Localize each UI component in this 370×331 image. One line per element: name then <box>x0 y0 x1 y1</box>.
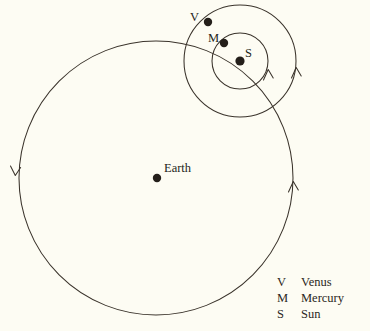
earth-dot <box>153 174 161 182</box>
legend-symbol-venus: V <box>277 274 301 290</box>
venus-orbit-arrow-icon <box>292 68 302 79</box>
legend-name-venus: Venus <box>301 274 332 290</box>
sun-label: S <box>245 46 252 60</box>
mercury-dot <box>220 39 228 47</box>
legend: V Venus M Mercury S Sun <box>277 274 367 322</box>
legend-row-venus: V Venus <box>277 274 367 290</box>
legend-symbol-mercury: M <box>277 290 301 306</box>
legend-name-mercury: Mercury <box>301 290 344 306</box>
earth-label: Earth <box>164 161 192 175</box>
venus-dot <box>204 18 212 26</box>
legend-name-sun: Sun <box>301 306 320 322</box>
venus-label: V <box>190 10 199 24</box>
orbital-diagram: Earth V M S V Venus M Mercury S Sun <box>0 0 370 331</box>
mercury-label: M <box>208 31 219 45</box>
legend-symbol-sun: S <box>277 306 301 322</box>
sun-dot <box>235 56 244 65</box>
legend-row-sun: S Sun <box>277 306 367 322</box>
legend-row-mercury: M Mercury <box>277 290 367 306</box>
